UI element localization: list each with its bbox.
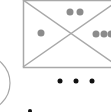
grey-dot: [77, 9, 84, 16]
black-dot: [74, 79, 79, 84]
ellipsis-dots: [58, 79, 95, 84]
grey-dot: [108, 31, 112, 38]
circle-outline: [0, 55, 10, 111]
black-dot: [28, 109, 32, 112]
grey-dot: [101, 31, 108, 38]
bottom-dot: [28, 109, 32, 112]
black-dot: [90, 79, 95, 84]
black-dot: [58, 79, 63, 84]
grey-dot: [93, 31, 100, 38]
grey-dot: [67, 9, 74, 16]
diagram-canvas: [0, 0, 111, 112]
grey-dot: [38, 30, 45, 37]
partial-circle-arc: [0, 55, 10, 111]
